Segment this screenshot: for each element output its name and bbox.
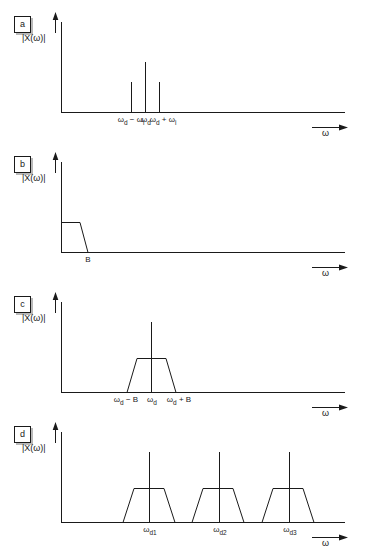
panel-d: d |X(ω)| ωd1 ωd2 ωd3 ω [0, 410, 370, 547]
band-spectrum-d-3 [262, 489, 314, 523]
x-axis-arrow-head-b [339, 264, 348, 270]
tick-label-b-0: B [85, 255, 90, 264]
y-axis-arrow-head-b [53, 152, 59, 160]
y-axis-arrow-head-c [53, 292, 59, 300]
y-axis-arrow-head-a [53, 12, 59, 20]
x-axis-arrow-head-d [339, 534, 348, 540]
x-axis-label-d: ω [322, 538, 329, 548]
tick-label-d-0: ωd1 [143, 525, 156, 536]
tick-label-c-0: ωd − B [114, 395, 138, 406]
tick-label-d-1: ωd2 [213, 525, 226, 536]
panel-b-plot [0, 140, 370, 277]
panel-a: a |X(ω)| ωd − ωi ωd ωd + ωi ω [0, 0, 370, 137]
band-spectrum-d-2 [192, 489, 244, 523]
x-axis-label-a: ω [322, 128, 329, 138]
tick-label-a-2: ωd + ωi [150, 115, 177, 126]
tick-label-d-2: ωd3 [283, 525, 296, 536]
panel-d-plot [0, 410, 370, 547]
panel-a-plot [0, 0, 370, 137]
panel-c: c |X(ω)| ωd − B ωd ωd + B ω [0, 280, 370, 417]
signal-spectra-figure: a |X(ω)| ωd − ωi ωd ωd + ωi ω b |X(ω)| [0, 0, 370, 550]
x-axis-arrow-head-a [339, 124, 348, 130]
panel-b: b |X(ω)| B ω [0, 140, 370, 277]
y-axis-arrow-head-d [53, 422, 59, 430]
x-axis-label-b: ω [322, 268, 329, 278]
baseband-spectrum-b [62, 223, 89, 253]
tick-label-c-2: ωd + B [167, 395, 191, 406]
tick-label-c-1: ωd [147, 395, 157, 406]
